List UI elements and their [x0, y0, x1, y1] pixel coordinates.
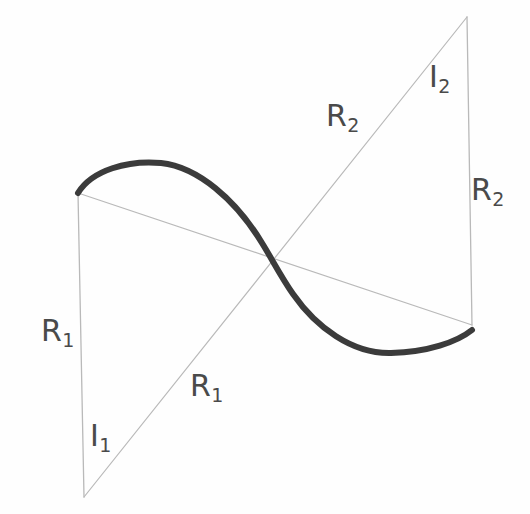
construction-lines — [78, 17, 472, 497]
descending-diagonal-line — [78, 193, 472, 325]
left-vertical-line — [78, 193, 84, 497]
label-i1-base: I — [90, 418, 99, 453]
label-r2-right: R2 — [471, 175, 504, 205]
label-i1-subscript: 1 — [99, 434, 111, 456]
label-r1-mid: R1 — [190, 371, 223, 401]
label-r1-mid-subscript: 1 — [211, 384, 223, 406]
label-r2-right-base: R — [471, 172, 492, 207]
label-r1-left-base: R — [41, 313, 62, 348]
diagram-canvas: R1 I1 R1 R2 I2 R2 — [0, 0, 530, 514]
label-i2-base: I — [429, 59, 438, 94]
label-r1-mid-base: R — [190, 368, 211, 403]
label-r1-left-subscript: 1 — [62, 329, 74, 351]
label-r2-mid-subscript: 2 — [347, 114, 359, 136]
label-i2-subscript: 2 — [438, 75, 450, 97]
right-vertical-line — [467, 17, 472, 325]
label-r2-right-subscript: 2 — [492, 188, 504, 210]
label-r1-left: R1 — [41, 316, 74, 346]
label-i2: I2 — [429, 62, 450, 92]
label-r2-mid-base: R — [326, 98, 347, 133]
label-i1: I1 — [90, 421, 111, 451]
figure-svg — [0, 0, 530, 514]
label-r2-mid: R2 — [326, 101, 359, 131]
ascending-diagonal-line — [84, 17, 467, 497]
